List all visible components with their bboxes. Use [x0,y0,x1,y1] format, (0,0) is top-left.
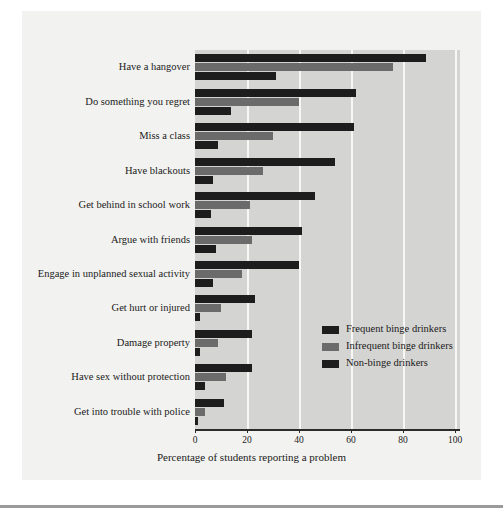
x-axis-line [195,429,460,431]
x-tick-0 [195,429,196,433]
bar [195,201,250,209]
category-label: Get into trouble with police [0,407,190,418]
bar-row [195,417,460,425]
page-bottom-rule [0,505,503,508]
bar [195,167,263,175]
bar [195,107,231,115]
bar-row [195,72,460,80]
bar-row [195,304,460,312]
bar [195,54,426,62]
bar-row [195,89,460,97]
bar [195,132,273,140]
bar-row [195,158,460,166]
bar [195,227,302,235]
x-axis-title: Percentage of students reporting a probl… [22,451,481,463]
chart-figure: Have a hangoverDo something you regretMi… [22,11,481,480]
bar [195,373,226,381]
bar [195,313,200,321]
bar-row [195,382,460,390]
category-label: Have blackouts [0,166,190,177]
bar [195,279,213,287]
bar [195,364,252,372]
bar-row [195,210,460,218]
category-label: Damage property [0,338,190,349]
bar [195,63,393,71]
bar-row [195,176,460,184]
bar [195,408,205,416]
category-label: Have sex without protection [0,372,190,383]
category-label: Engage in unplanned sexual activity [0,269,190,280]
bar-row [195,399,460,407]
bar [195,158,335,166]
bar [195,261,299,269]
bar [195,382,205,390]
bar [195,192,315,200]
bar [195,245,216,253]
bar-row [195,373,460,381]
legend-swatch [322,326,339,334]
x-tick-label: 80 [398,435,408,445]
category-axis-labels: Have a hangoverDo something you regretMi… [0,50,190,429]
bar [195,98,299,106]
bar-row [195,54,460,62]
category-label: Get hurt or injured [0,303,190,314]
legend-entry: Non-binge drinkers [322,356,453,371]
bar-row [195,295,460,303]
bar [195,176,213,184]
x-tick-100 [455,429,456,433]
legend-swatch [322,343,339,351]
bar-row [195,313,460,321]
bar-row [195,107,460,115]
x-tick-label: 100 [448,435,462,445]
legend-entry: Infrequent binge drinkers [322,339,453,354]
bar [195,72,276,80]
bar-row [195,408,460,416]
category-label: Get behind in school work [0,200,190,211]
x-tick-label: 0 [193,435,198,445]
bar [195,270,242,278]
bar [195,417,198,425]
bar-row [195,261,460,269]
bar [195,304,221,312]
x-tick-40 [299,429,300,433]
bar [195,236,252,244]
legend-swatch [322,360,339,368]
x-tick-label: 20 [242,435,252,445]
x-tick-label: 40 [294,435,304,445]
x-tick-20 [247,429,248,433]
bar-row [195,201,460,209]
bar-row [195,227,460,235]
legend-label: Infrequent binge drinkers [346,341,453,352]
category-label: Have a hangover [0,62,190,73]
bar [195,141,218,149]
bar-row [195,270,460,278]
bar [195,123,354,131]
bar-row [195,141,460,149]
chart-legend: Frequent binge drinkersInfrequent binge … [322,322,453,373]
legend-entry: Frequent binge drinkers [322,322,453,337]
bar [195,399,224,407]
bar [195,348,200,356]
bar-row [195,132,460,140]
bar [195,339,218,347]
bar-row [195,279,460,287]
bar-row [195,167,460,175]
x-tick-label: 60 [346,435,356,445]
bar-row [195,245,460,253]
bar [195,89,356,97]
bar-row [195,123,460,131]
category-label: Do something you regret [0,97,190,108]
legend-label: Frequent binge drinkers [346,324,446,335]
bar-row [195,192,460,200]
bar [195,210,211,218]
category-label: Miss a class [0,131,190,142]
bar [195,295,255,303]
bar-row [195,63,460,71]
bar [195,330,252,338]
bar-row [195,98,460,106]
legend-label: Non-binge drinkers [346,358,428,369]
x-tick-80 [403,429,404,433]
category-label: Argue with friends [0,235,190,246]
x-tick-60 [351,429,352,433]
bar-row [195,236,460,244]
